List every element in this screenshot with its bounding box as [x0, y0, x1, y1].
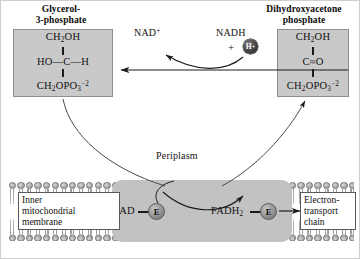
- glycerol-phosphate-shuttle-diagram: Glycerol- 3-phosphate CH2OH HO—C—H CH2OP…: [0, 0, 360, 259]
- figure-border: [0, 0, 360, 259]
